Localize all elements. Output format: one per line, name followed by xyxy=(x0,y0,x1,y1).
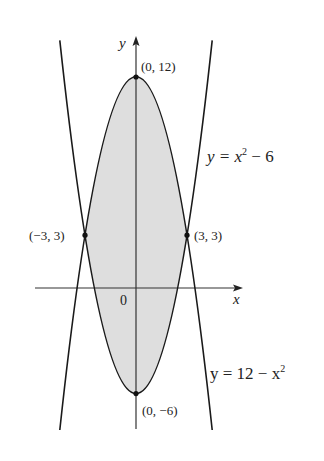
curve-lower-label-sup: 2 xyxy=(280,363,285,374)
point-bottom xyxy=(133,391,138,396)
origin-label: 0 xyxy=(120,293,127,308)
point-top xyxy=(133,74,138,79)
curve-upper-label-tail: − 6 xyxy=(247,147,274,166)
y-axis-label: y xyxy=(117,35,126,51)
curve-upper-label-head: y = x xyxy=(205,147,243,166)
graph-canvas: y x 0 (0, 12) (−3, 3) (3, 3) (0, −6) y =… xyxy=(0,0,324,461)
curve-upper-label: y = x2 − 6 xyxy=(205,146,274,166)
x-axis-label: x xyxy=(232,291,240,307)
curve-lower-label: y = 12 − x2 xyxy=(210,363,285,383)
curve-lower-label-head: y = 12 − x xyxy=(210,364,281,383)
point-left xyxy=(82,233,87,238)
point-right xyxy=(184,233,189,238)
point-top-label: (0, 12) xyxy=(141,59,176,74)
point-right-label: (3, 3) xyxy=(194,228,222,243)
point-left-label: (−3, 3) xyxy=(29,228,65,243)
point-bottom-label: (0, −6) xyxy=(142,403,178,418)
